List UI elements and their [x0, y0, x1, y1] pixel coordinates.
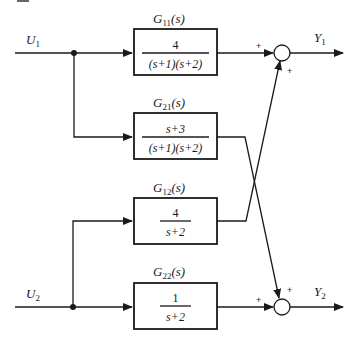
summing-junction-2 [274, 299, 290, 315]
g12-numerator: 4 [173, 206, 179, 220]
block-g11: G11(s) 4 (s+1)(s+2) [134, 11, 217, 75]
g11-title: G11(s) [153, 11, 185, 28]
g11-numerator: 4 [173, 38, 179, 52]
label-u1: U1 [26, 32, 40, 49]
u1-branch-point [71, 50, 77, 56]
g22-title: G22(s) [153, 264, 185, 281]
sum2-sign-top: + [287, 285, 292, 295]
sum1-sign-left: + [256, 41, 261, 51]
block-output-wires [217, 53, 280, 307]
g22-denominator: s+2 [166, 310, 185, 324]
sum1-sign-bottom: + [287, 66, 292, 76]
sum2-sign-left: + [256, 295, 261, 305]
g12-denominator: s+2 [166, 225, 185, 239]
label-y2: Y2 [314, 284, 326, 301]
label-y1: Y1 [314, 30, 326, 47]
g12-title: G12(s) [153, 180, 185, 197]
g21-title: G21(s) [153, 95, 185, 112]
block-g21: G21(s) s+3 (s+1)(s+2) [134, 95, 217, 159]
input-u1-wires [15, 50, 132, 137]
block-diagram: U1 U2 G11(s) 4 (s+1)(s+2) G21(s) s+3 (s+… [0, 0, 348, 341]
summing-junction-1 [274, 45, 290, 61]
label-u2: U2 [26, 286, 40, 303]
block-g12: G12(s) 4 s+2 [134, 180, 217, 244]
g22-numerator: 1 [173, 291, 179, 305]
block-g22: G22(s) 1 s+2 [134, 264, 217, 329]
g21-numerator: s+3 [166, 122, 185, 136]
u2-branch-point [70, 304, 76, 310]
g21-denominator: (s+1)(s+2) [149, 141, 203, 155]
g11-denominator: (s+1)(s+2) [149, 57, 203, 71]
